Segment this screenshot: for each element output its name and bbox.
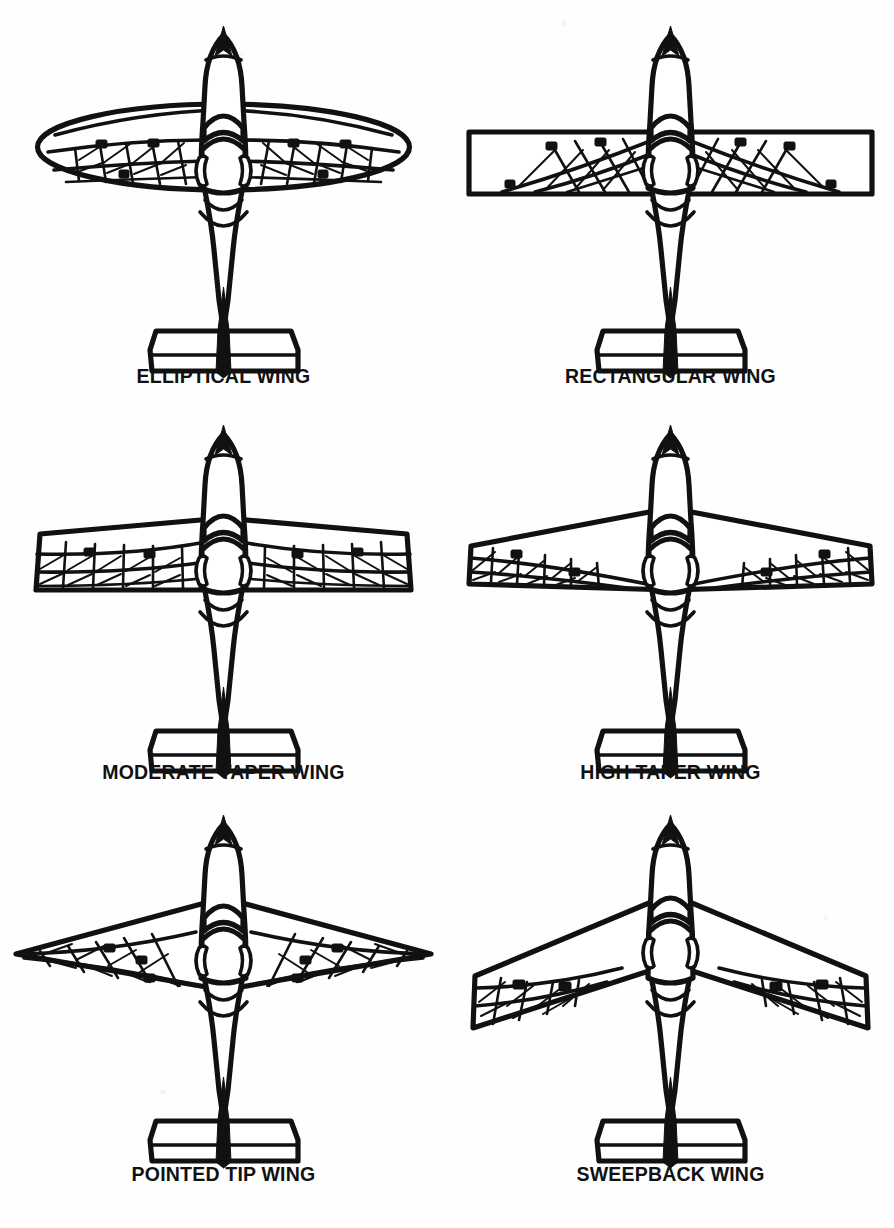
- wing-fitting: [144, 974, 155, 982]
- figure-pointed-tip: POINTED TIP WING: [0, 802, 447, 1228]
- wing-fitting: [84, 548, 95, 556]
- wing-fitting: [352, 548, 363, 556]
- page-sheet: ELLIPTICAL WING: [0, 0, 894, 1228]
- wing-fitting: [735, 138, 746, 146]
- wing-fitting: [546, 142, 557, 150]
- wing-rib: [123, 545, 124, 588]
- wing-fitting: [559, 982, 571, 991]
- wing-fitting: [292, 550, 303, 558]
- wing-fitting: [292, 974, 303, 982]
- figure-elliptical: ELLIPTICAL WING: [0, 0, 447, 412]
- wing-fitting: [288, 139, 299, 147]
- figure-caption-elliptical: ELLIPTICAL WING: [0, 365, 447, 388]
- wing-panel-right: [671, 894, 869, 1028]
- wing-fitting: [318, 170, 328, 178]
- wing-fitting: [300, 956, 311, 964]
- side-window-right: [687, 556, 698, 586]
- side-window-left: [196, 556, 207, 586]
- pointed-tip-planform-drawing: [16, 815, 431, 1168]
- wing-panel-right: [224, 898, 432, 990]
- side-window-left: [643, 938, 654, 968]
- wing-fitting: [144, 550, 155, 558]
- figure-caption-pointed-tip: POINTED TIP WING: [0, 1163, 447, 1186]
- wing-fitting: [119, 170, 129, 178]
- side-window-right: [240, 156, 251, 186]
- aircraft-high-taper-wing: [447, 412, 894, 802]
- side-window-left: [196, 946, 207, 976]
- wing-fitting: [816, 980, 828, 989]
- figure-rectangular: RECTANGULAR WING: [447, 0, 894, 412]
- wing-fitting: [136, 956, 147, 964]
- side-window-left: [196, 156, 207, 186]
- wing-fitting: [569, 568, 580, 576]
- wing-rib: [264, 547, 265, 588]
- figure-high-taper: HIGH TAPER WING: [447, 412, 894, 802]
- figure-sweepback: SWEEPBACK WING: [447, 802, 894, 1228]
- figure-moderate-taper: MODERATE TAPER WING: [0, 412, 447, 802]
- side-window-left: [643, 156, 654, 186]
- side-window-left: [643, 556, 654, 586]
- aircraft-moderate-taper-wing: [0, 412, 447, 802]
- wing-fitting: [826, 180, 836, 188]
- wing-fitting: [513, 980, 525, 989]
- side-window-right: [687, 156, 698, 186]
- figure-caption-sweepback: SWEEPBACK WING: [447, 1163, 894, 1186]
- rectangular-planform-drawing: [469, 26, 872, 378]
- figure-caption-moderate-taper: MODERATE TAPER WING: [0, 761, 447, 784]
- wing-fitting: [505, 180, 515, 188]
- elliptical-planform-drawing: [38, 26, 410, 378]
- wing-panel-left: [473, 894, 671, 1028]
- aircraft-rectangular-wing: [447, 0, 894, 412]
- side-window-right: [240, 946, 251, 976]
- wing-rib: [182, 547, 183, 588]
- wing-fitting: [148, 139, 159, 147]
- side-window-right: [240, 556, 251, 586]
- high-taper-planform-drawing: [469, 425, 872, 778]
- wing-fitting: [595, 138, 606, 146]
- sweepback-planform-drawing: [473, 815, 868, 1168]
- figure-caption-rectangular: RECTANGULAR WING: [447, 365, 894, 388]
- canopy: [648, 921, 693, 983]
- figure-caption-high-taper: HIGH TAPER WING: [447, 761, 894, 784]
- wing-fitting: [770, 982, 782, 991]
- moderate-taper-planform-drawing: [36, 425, 411, 778]
- wing-fitting: [104, 944, 115, 952]
- figure-grid: ELLIPTICAL WING: [0, 0, 894, 1228]
- wing-fitting: [511, 550, 522, 558]
- wing-panel-left: [16, 898, 224, 990]
- aircraft-elliptical-wing: [0, 0, 447, 412]
- wing-fitting: [96, 140, 107, 148]
- wing-fitting: [332, 944, 343, 952]
- wing-fitting: [819, 550, 830, 558]
- wing-rib: [323, 545, 324, 588]
- wing-fitting: [340, 140, 351, 148]
- wing-fitting: [784, 142, 795, 150]
- side-window-right: [687, 938, 698, 968]
- wing-fitting: [761, 568, 772, 576]
